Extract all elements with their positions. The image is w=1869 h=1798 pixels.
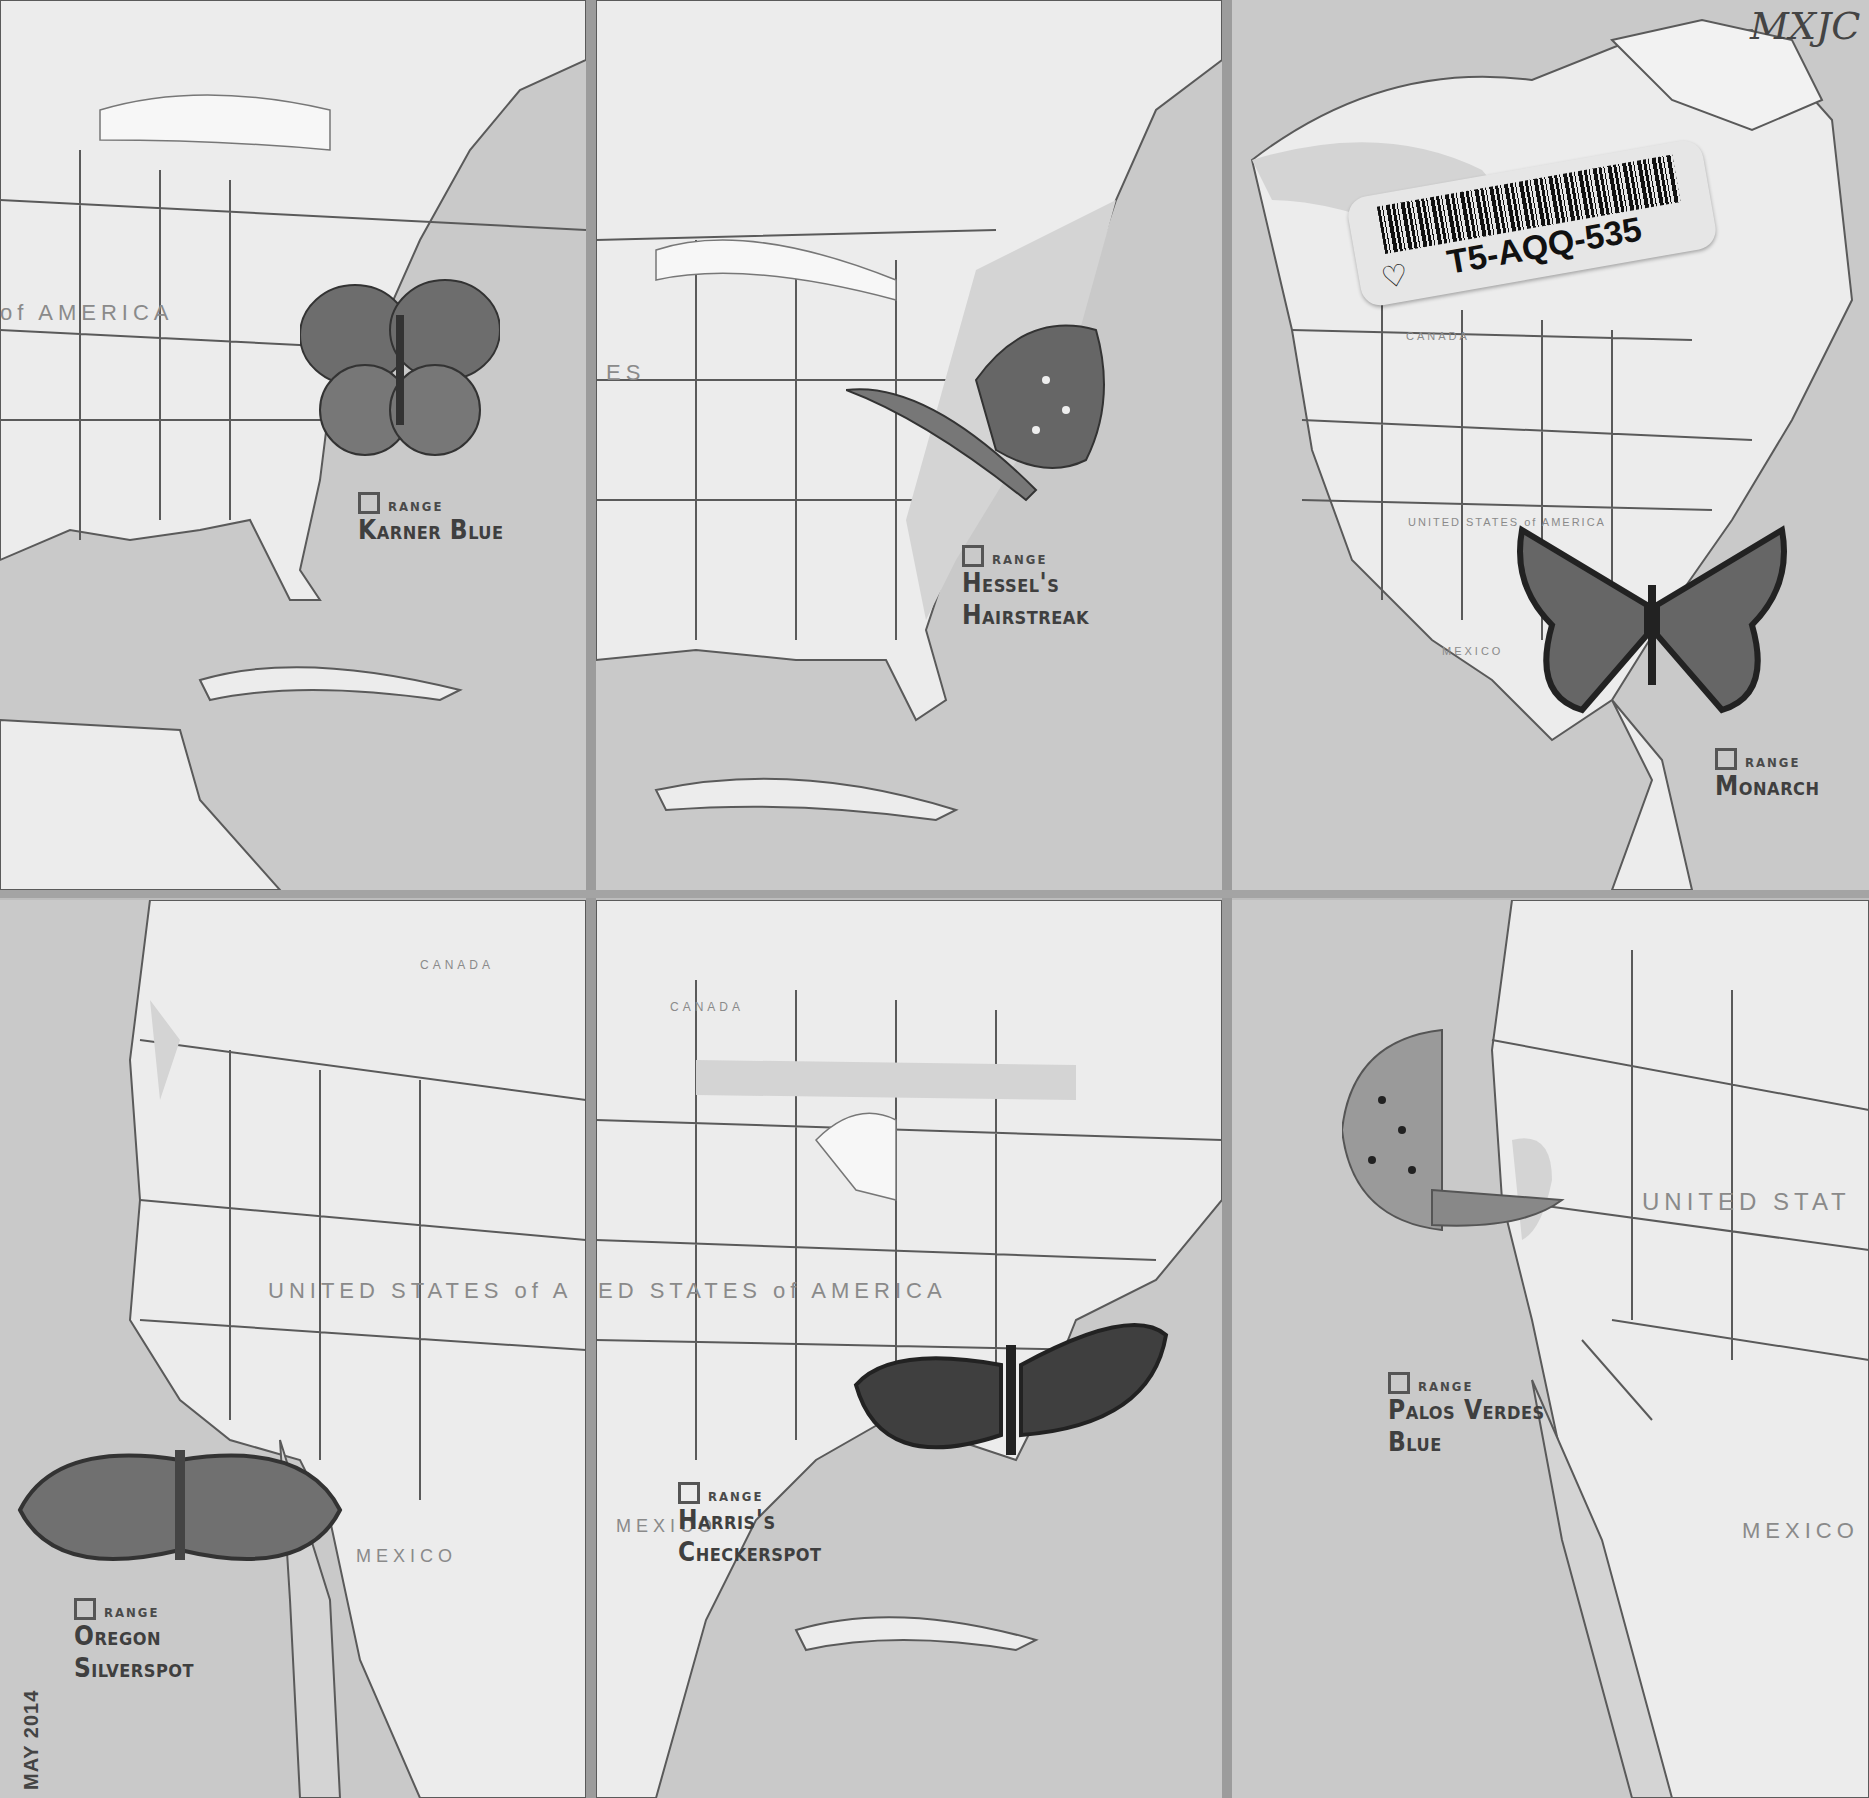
country-label: CANADA xyxy=(1406,330,1470,342)
species-name: Harris's xyxy=(678,1504,822,1536)
stamp-legend: RANGE Palos Verdes Blue xyxy=(1388,1372,1545,1458)
range-key-checkbox xyxy=(74,1598,96,1620)
stamp-legend: RANGE Harris's Checkerspot xyxy=(678,1482,822,1568)
range-label: RANGE xyxy=(104,1602,159,1620)
stamp-legend: RANGE Hessel's Hairstreak xyxy=(962,545,1089,631)
range-key-checkbox xyxy=(1388,1372,1410,1394)
stamp-hessels-hairstreak: TULSA CITY-COUNTY LIBRARY ES RANGE Hesse… xyxy=(596,0,1222,890)
species-name: Oregon xyxy=(74,1620,194,1652)
species-name: Karner Blue xyxy=(358,514,504,546)
species-name-line2: Hairstreak xyxy=(962,599,1089,631)
oregon-silverspot-butterfly-illustration xyxy=(15,1430,345,1595)
species-name-line2: Blue xyxy=(1388,1426,1545,1458)
stamp-legend: RANGE Monarch xyxy=(1715,748,1820,802)
country-label: CANADA xyxy=(420,958,494,972)
species-name-line2: Checkerspot xyxy=(678,1536,822,1568)
range-label: RANGE xyxy=(1418,1376,1473,1394)
range-label: RANGE xyxy=(708,1486,763,1504)
perforation-divider xyxy=(0,890,1869,898)
perforation-divider xyxy=(1222,0,1232,1798)
handwritten-code: MXJC xyxy=(1750,4,1860,48)
stamp-legend: RANGE Karner Blue xyxy=(358,492,504,546)
species-name: Monarch xyxy=(1715,770,1820,802)
country-label: of AMERICA xyxy=(0,300,173,326)
country-label: ES xyxy=(606,360,645,386)
country-label: ED STATES of AMERICA xyxy=(598,1278,947,1304)
range-label: RANGE xyxy=(388,496,443,514)
stamp-sheet: of AMERICA RANGE Karner Blue TULSA CITY-… xyxy=(0,0,1869,1798)
stamp-oregon-silverspot: CANADA UNITED STATES of A MEXICO RANGE O… xyxy=(0,900,586,1798)
country-label: MEXICO xyxy=(1742,1518,1859,1544)
stamp-harriss-checkerspot: CANADA ED STATES of AMERICA MEXICO RANGE… xyxy=(596,900,1222,1798)
country-label: MEXICO xyxy=(356,1546,457,1567)
range-key-checkbox xyxy=(962,545,984,567)
stamp-monarch: CANADA UNITED STATES of AMERICA MEXICO R… xyxy=(1232,0,1869,890)
oklahoma-shape-icon: ♡ xyxy=(1378,257,1411,296)
stamp-karner-blue: of AMERICA RANGE Karner Blue xyxy=(0,0,586,890)
range-label: RANGE xyxy=(992,549,1047,567)
hessels-hairstreak-butterfly-illustration xyxy=(846,310,1116,520)
country-label: UNITED STAT xyxy=(1642,1188,1851,1216)
country-label: MEXICO xyxy=(1442,645,1503,657)
species-name: Hessel's xyxy=(962,567,1089,599)
perforation-divider xyxy=(586,0,596,1798)
range-key-checkbox xyxy=(1715,748,1737,770)
karner-blue-butterfly-illustration xyxy=(300,275,500,475)
stamp-palos-verdes-blue: UNITED STAT MEXICO RANGE Palos Verdes Bl… xyxy=(1232,900,1869,1798)
range-label: RANGE xyxy=(1745,752,1800,770)
range-key-checkbox xyxy=(358,492,380,514)
monarch-butterfly-illustration xyxy=(1512,525,1792,715)
palos-verdes-blue-butterfly-illustration xyxy=(1342,1020,1572,1270)
species-name-line2: Silverspot xyxy=(74,1652,194,1684)
country-label: CANADA xyxy=(670,1000,744,1014)
country-label: UNITED STATES of A xyxy=(268,1278,572,1304)
harriss-checkerspot-butterfly-illustration xyxy=(851,1305,1171,1485)
printing-date: MAY 2014 xyxy=(20,1690,43,1790)
stamp-legend: RANGE Oregon Silverspot xyxy=(74,1598,194,1684)
species-name: Palos Verdes xyxy=(1388,1394,1545,1426)
range-key-checkbox xyxy=(678,1482,700,1504)
